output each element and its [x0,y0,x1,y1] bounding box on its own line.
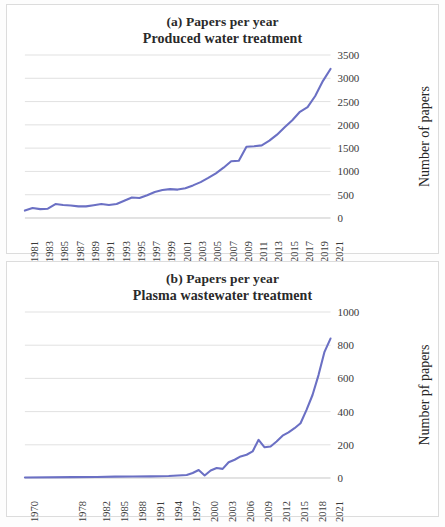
y-tick-label: 1000 [337,306,359,318]
chart-a-svg: 3500300025002000150010005000Number of pa… [7,47,438,222]
x-tick-label: 1982 [101,501,112,522]
y-tick-label: 0 [337,472,343,482]
x-tick-label: 2019 [319,241,330,262]
chart-b-title-line1: (b) Papers per year [166,271,279,286]
x-tick-label: 1970 [29,501,40,522]
x-tick-label: 2009 [263,501,274,522]
x-tick-label: 2015 [299,501,310,522]
x-tick-label: 1981 [29,241,40,262]
figure-container: (a) Papers per year Produced water treat… [0,0,445,527]
chart-a-plot-area: 3500300025002000150010005000Number of pa… [7,47,438,222]
y-tick-label: 2000 [337,119,359,131]
chart-b-xtick-labels: 1970197819821985198819911994199720002003… [7,482,438,526]
x-tick-label: 2000 [209,501,220,522]
x-tick-label: 2001 [182,241,193,262]
x-tick-label: 2009 [243,241,254,262]
x-tick-label: 2015 [289,241,300,262]
x-tick-label: 2011 [258,241,269,262]
x-tick-label: 1987 [75,241,86,262]
x-tick-label: 1978 [77,501,88,522]
y-axis-title: Number of papers [417,86,432,187]
x-tick-label: 2003 [227,501,238,522]
y-tick-label: 2500 [337,96,359,108]
y-tick-label: 600 [337,372,354,384]
x-tick-label: 2005 [212,241,223,262]
y-tick-label: 1000 [337,165,359,177]
x-tick-label: 1995 [136,241,147,262]
x-tick-label: 1994 [173,501,184,522]
y-tick-label: 3000 [337,72,359,84]
x-tick-label: 1991 [105,241,116,262]
x-tick-label: 2021 [334,501,345,522]
x-tick-label: 1997 [151,241,162,262]
x-tick-label: 1983 [44,241,55,262]
y-tick-label: 400 [337,406,354,418]
y-tick-label: 200 [337,439,354,451]
y-tick-label: 500 [337,189,354,201]
x-tick-label: 2021 [334,241,345,262]
y-tick-label: 800 [337,339,354,351]
chart-panel-a: (a) Papers per year Produced water treat… [6,4,439,254]
chart-a-xtick-labels: 1981198319851987198919911993199519971999… [7,222,438,266]
chart-b-plot-area: 10008006004002000Number pf papers [7,304,438,482]
y-tick-label: 0 [337,212,343,222]
x-tick-label: 1985 [119,501,130,522]
x-tick-label: 1991 [155,501,166,522]
x-tick-label: 2017 [304,241,315,262]
x-tick-label: 2007 [228,241,239,262]
series-line [25,339,331,478]
x-tick-label: 1999 [166,241,177,262]
series-line [25,69,331,211]
x-tick-label: 2018 [317,501,328,522]
x-tick-label: 2006 [245,501,256,522]
y-axis-title: Number pf papers [417,345,432,446]
x-tick-label: 1997 [191,501,202,522]
x-tick-label: 1988 [137,501,148,522]
y-tick-label: 3500 [337,49,359,61]
chart-b-title: (b) Papers per year Plasma wastewater tr… [7,262,438,304]
x-tick-label: 1993 [121,241,132,262]
x-tick-label: 1989 [90,241,101,262]
chart-a-title-line1: (a) Papers per year [166,14,278,29]
y-tick-label: 1500 [337,142,359,154]
chart-a-title: (a) Papers per year Produced water treat… [7,5,438,47]
x-tick-label: 2012 [281,501,292,522]
chart-a-title-line2: Produced water treatment [7,30,438,47]
x-tick-label: 2003 [197,241,208,262]
chart-b-svg: 10008006004002000Number pf papers [7,304,438,482]
x-tick-label: 1985 [59,241,70,262]
x-tick-label: 2013 [273,241,284,262]
chart-panel-b: (b) Papers per year Plasma wastewater tr… [6,261,439,517]
chart-b-title-line2: Plasma wastewater treatment [7,287,438,304]
